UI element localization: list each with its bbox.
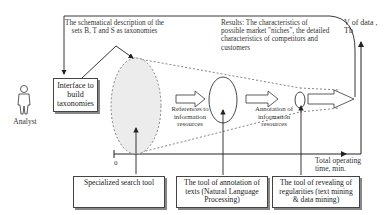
tool-nlp-box[interactable]: The tool of annotation of texts (Natural… (176, 176, 268, 208)
tool-mining-box[interactable]: The tool of revealing of regularities (t… (272, 176, 360, 208)
stage-label-references: References to information resources (168, 105, 212, 128)
x-axis-label: Total operating time, min. (315, 157, 377, 173)
analyst-label: Analyst (8, 118, 42, 126)
regularities-ellipse (295, 92, 305, 108)
analyst-icon (18, 86, 30, 115)
taxonomy-note: The schematical description of the sets … (62, 19, 167, 35)
tool-search-box[interactable]: Specialized search tool (73, 176, 165, 208)
block-arrow-3 (308, 90, 354, 108)
stage-label-annotation: Annotation of information resources (252, 105, 296, 128)
y-axis-label: V of data , Tb (344, 19, 386, 35)
interface-box[interactable]: Interface to build taxonomies (53, 78, 98, 112)
results-note: Results: The characteristics of possible… (221, 19, 333, 52)
interface-box-label: Interface to build taxonomies (57, 81, 94, 108)
tool-mining-label: The tool of revealing of regularities (t… (279, 178, 352, 204)
tool-search-label: Specialized search tool (84, 178, 154, 187)
origin-label: 0 (114, 159, 118, 167)
tool-nlp-label: The tool of annotation of texts (Natural… (184, 178, 260, 204)
